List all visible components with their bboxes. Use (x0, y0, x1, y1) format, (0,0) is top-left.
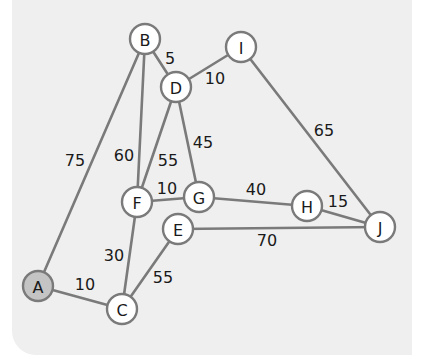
edge-weight-f-g: 10 (157, 179, 177, 198)
node-j: J (365, 212, 395, 242)
node-h: H (292, 191, 322, 221)
node-label: H (301, 198, 313, 217)
edge-weight-f-c: 30 (104, 246, 124, 265)
node-b: B (130, 24, 160, 54)
edge-weight-a-c: 10 (75, 275, 95, 294)
node-label: F (132, 194, 141, 213)
node-f: F (122, 187, 152, 217)
node-label: I (239, 39, 244, 58)
node-d: D (161, 72, 191, 102)
edge-weight-c-e: 55 (153, 268, 173, 287)
edge-weight-b-f: 60 (114, 146, 134, 165)
node-e: E (163, 214, 193, 244)
node-label: E (173, 221, 183, 240)
edge-weight-d-i: 10 (205, 69, 225, 88)
node-label: G (193, 189, 205, 208)
edge-weight-d-f: 55 (158, 151, 178, 170)
weighted-graph-diagram: 751056010554510304015657055 ABCDEFGHIJ (0, 0, 424, 359)
edge-weight-h-j: 15 (328, 192, 348, 211)
node-label: J (377, 219, 383, 238)
edge-weight-g-h: 40 (246, 180, 266, 199)
edge-b-f (137, 39, 145, 202)
edge-weight-b-d: 5 (165, 49, 175, 68)
edge-e-j (178, 227, 380, 229)
node-g: G (184, 182, 214, 212)
node-label: D (170, 79, 182, 98)
node-c: C (107, 294, 137, 324)
node-a: A (23, 271, 53, 301)
edge-weight-d-g: 45 (193, 133, 213, 152)
node-label: A (33, 278, 44, 297)
node-i: I (226, 32, 256, 62)
edge-weights-layer: 751056010554510304015657055 (65, 49, 348, 294)
edge-weight-i-j: 65 (314, 121, 334, 140)
edge-weight-e-j: 70 (257, 231, 277, 250)
node-label: C (116, 301, 127, 320)
edge-weight-a-b: 75 (65, 151, 85, 170)
node-label: B (140, 31, 151, 50)
